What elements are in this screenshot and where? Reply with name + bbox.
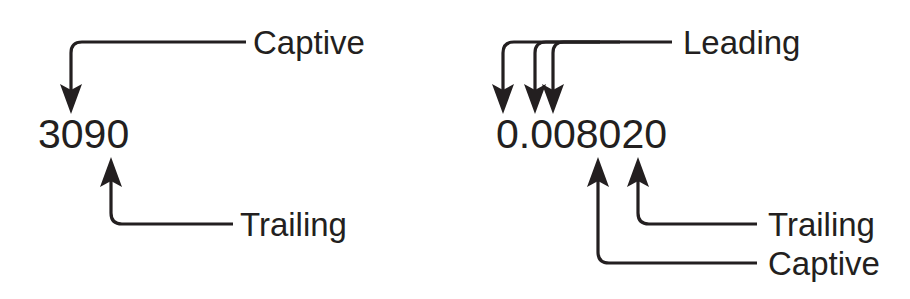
left-trailing-line	[111, 180, 233, 224]
right-captive-connector	[587, 157, 757, 263]
right-captive-label: Captive	[768, 245, 880, 282]
right-captive-line	[598, 180, 757, 263]
right-trailing-label: Trailing	[768, 206, 875, 243]
right-number: 0.008020	[496, 111, 667, 157]
right-trailing-line	[638, 180, 757, 224]
significant-figures-diagram: 3090 Captive Trailing	[0, 0, 910, 299]
left-captive-connector	[60, 42, 246, 114]
right-leading-line-middle	[535, 42, 600, 92]
example-left-group: 3090 Captive Trailing	[38, 24, 365, 243]
right-leading-line-outer	[503, 42, 672, 92]
left-captive-line	[71, 42, 246, 92]
left-number: 3090	[38, 111, 129, 157]
diagram-canvas: 3090 Captive Trailing	[0, 0, 910, 299]
right-leading-label: Leading	[683, 24, 800, 61]
right-leading-line-inner	[553, 42, 620, 92]
right-trailing-connector	[627, 157, 757, 224]
left-trailing-connector	[100, 157, 233, 224]
left-captive-label: Captive	[253, 24, 365, 61]
left-trailing-label: Trailing	[240, 206, 347, 243]
example-right-group: 0.008020 Leading Trailing Captive	[492, 24, 880, 282]
right-leading-connector	[492, 42, 672, 114]
